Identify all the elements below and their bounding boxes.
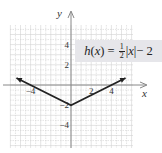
function-graph: −42442−2−4 x y	[0, 0, 162, 153]
y-axis-label: y	[56, 7, 62, 19]
svg-text:−4: −4	[59, 120, 69, 130]
svg-text:4: 4	[109, 86, 114, 96]
axes	[3, 11, 147, 148]
formula-lhs: h(x) =	[84, 44, 117, 59]
function-label: h(x) = 1 2 |x| − 2	[75, 40, 162, 62]
svg-text:4: 4	[65, 40, 70, 50]
formula-rhs: − 2	[136, 44, 152, 59]
svg-text:2: 2	[65, 60, 70, 70]
fraction-one-half: 1 2	[119, 43, 125, 60]
formula-abs: |x|	[126, 44, 137, 59]
x-axis-label: x	[141, 87, 147, 99]
